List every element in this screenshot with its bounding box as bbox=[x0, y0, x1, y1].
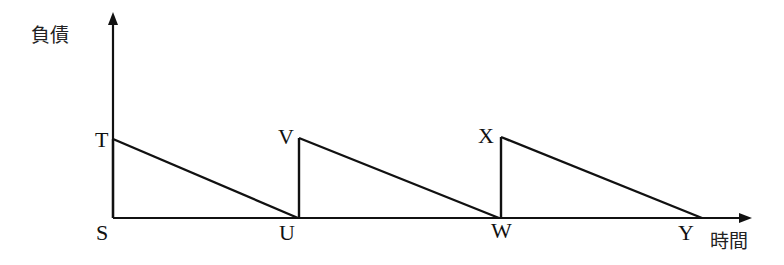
x-axis-arrow-icon bbox=[739, 213, 752, 223]
point-label-t: T bbox=[95, 129, 108, 151]
segment-x-y bbox=[501, 137, 702, 218]
point-label-w: W bbox=[491, 220, 512, 242]
point-label-y: Y bbox=[678, 222, 694, 244]
point-label-u: U bbox=[279, 222, 295, 244]
y-axis-label: 負債 bbox=[31, 26, 69, 45]
debt-diagram bbox=[0, 0, 784, 265]
point-label-s: S bbox=[96, 222, 108, 244]
point-label-v: V bbox=[278, 126, 294, 148]
point-label-x: X bbox=[478, 125, 494, 147]
segment-t-u bbox=[113, 139, 298, 218]
x-axis-label: 時間 bbox=[710, 232, 748, 251]
segment-v-w bbox=[299, 138, 499, 218]
y-axis-arrow-icon bbox=[108, 12, 118, 25]
